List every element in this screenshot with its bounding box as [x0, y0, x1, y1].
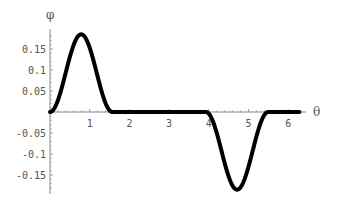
y-tick-label: 0.05: [22, 86, 46, 97]
x-tick-label: 3: [166, 118, 172, 129]
y-tick-label: 0.15: [22, 44, 46, 55]
chart: 1234560.150.10.05-0.05-0.1-0.15 θ φ: [0, 0, 339, 203]
x-tick-label: 6: [285, 118, 291, 129]
x-axis-label: θ: [313, 105, 320, 119]
x-tick-label: 2: [126, 118, 132, 129]
y-tick-label: 0.1: [28, 65, 46, 76]
x-tick-label: 1: [87, 118, 93, 129]
y-tick-label: -0.15: [16, 170, 46, 181]
y-tick-label: -0.05: [16, 128, 46, 139]
x-tick-label: 5: [245, 118, 251, 129]
y-tick-label: -0.1: [22, 149, 46, 160]
y-axis-label: φ: [46, 8, 54, 22]
